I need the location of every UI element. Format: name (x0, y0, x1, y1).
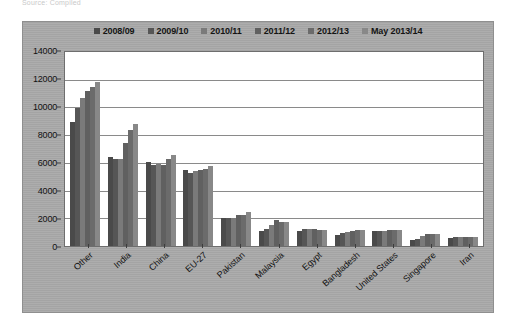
plot-area (64, 51, 484, 247)
bar[interactable] (208, 166, 213, 246)
legend-swatch-icon (148, 28, 154, 34)
legend-item[interactable]: 2011/12 (255, 26, 295, 36)
x-axis-tick-mark (469, 244, 470, 248)
x-axis-tick-label: Pakistan (215, 250, 247, 280)
x-axis-tick-label: China (147, 250, 171, 273)
legend-swatch-icon (255, 28, 261, 34)
y-axis-tick-mark (57, 247, 61, 248)
bar[interactable] (284, 222, 289, 246)
bar[interactable] (246, 212, 251, 246)
bar-group (297, 52, 327, 246)
bar-group (335, 52, 365, 246)
bar-group (183, 52, 213, 246)
legend-item[interactable]: 2010/11 (201, 26, 241, 36)
x-axis-tick-label: Egypt (300, 250, 323, 272)
x-axis-tick-label: Singapore (401, 250, 438, 284)
bar[interactable] (171, 155, 176, 246)
x-axis-tick-mark (164, 244, 165, 248)
y-axis-tick-mark (57, 107, 61, 108)
bar-group (146, 52, 176, 246)
legend-label: 2009/10 (157, 26, 189, 36)
y-axis-tick-label: 12000 (33, 74, 57, 84)
bar[interactable] (322, 230, 327, 246)
bar-chart: 2008/092009/102010/112011/122012/13May 2… (22, 21, 494, 313)
bar[interactable] (473, 237, 478, 246)
x-axis-tick-label: Other (71, 250, 94, 272)
x-axis-tick-mark (202, 244, 203, 248)
y-axis: 14000120001000080006000400020000 (23, 51, 61, 247)
legend-label: 2010/11 (210, 26, 241, 36)
y-axis-tick-label: 14000 (33, 46, 57, 56)
legend-item[interactable]: 2009/10 (148, 26, 189, 36)
bar-group (108, 52, 138, 246)
legend-item[interactable]: May 2013/14 (362, 26, 422, 36)
x-axis: OtherIndiaChinaEU-27PakistanMalaysiaEgyp… (64, 248, 484, 310)
y-axis-tick-mark (57, 135, 61, 136)
x-axis-tick-mark (431, 244, 432, 248)
bar[interactable] (397, 230, 402, 246)
x-axis-tick-label: Iran (458, 250, 476, 268)
bar-group (448, 52, 478, 246)
y-axis-tick-label: 10000 (33, 102, 57, 112)
bar[interactable] (133, 124, 138, 246)
x-axis-tick-mark (317, 244, 318, 248)
y-axis-tick-mark (57, 79, 61, 80)
source-note: Source: Compiled (22, 0, 81, 6)
x-axis-tick-mark (393, 244, 394, 248)
bar[interactable] (95, 82, 100, 246)
chart-legend: 2008/092009/102010/112011/122012/13May 2… (23, 26, 493, 36)
bar-group (70, 52, 100, 246)
x-axis-tick-label: India (112, 250, 133, 270)
x-axis-tick-mark (126, 244, 127, 248)
y-axis-tick-mark (57, 163, 61, 164)
legend-item[interactable]: 2012/13 (308, 26, 349, 36)
legend-label: May 2013/14 (371, 26, 422, 36)
y-axis-tick-label: 6000 (38, 158, 57, 168)
legend-label: 2011/12 (264, 26, 295, 36)
bar[interactable] (360, 230, 365, 246)
bar-series-layer (65, 52, 483, 246)
y-axis-tick-label: 2000 (38, 214, 57, 224)
bar-group (259, 52, 289, 246)
legend-label: 2012/13 (317, 26, 349, 36)
x-axis-tick-mark (355, 244, 356, 248)
legend-swatch-icon (362, 28, 368, 34)
y-axis-tick-mark (57, 219, 61, 220)
legend-swatch-icon (308, 28, 314, 34)
bar-group (410, 52, 440, 246)
bar-group (372, 52, 402, 246)
x-axis-tick-label: Malaysia (253, 250, 285, 281)
y-axis-tick-mark (57, 51, 61, 52)
legend-swatch-icon (201, 28, 207, 34)
bar-group (221, 52, 251, 246)
y-axis-tick-label: 4000 (38, 186, 57, 196)
x-axis-tick-label: EU-27 (184, 250, 209, 274)
legend-item[interactable]: 2008/09 (94, 26, 135, 36)
legend-label: 2008/09 (103, 26, 135, 36)
x-axis-tick-mark (279, 244, 280, 248)
legend-swatch-icon (94, 28, 100, 34)
x-axis-tick-mark (88, 244, 89, 248)
y-axis-tick-mark (57, 191, 61, 192)
bar[interactable] (435, 234, 440, 246)
x-axis-tick-mark (240, 244, 241, 248)
y-axis-tick-label: 8000 (38, 130, 57, 140)
